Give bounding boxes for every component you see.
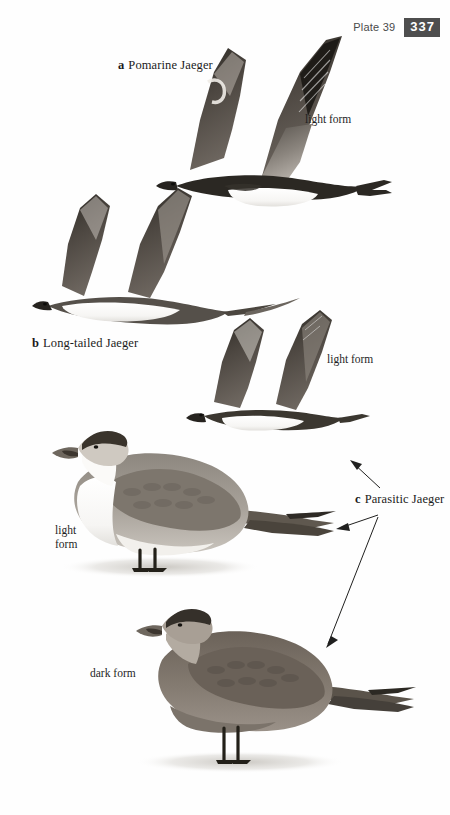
caption-key-b: b [32, 336, 39, 350]
leader-arrow-to-standing-dark [326, 517, 378, 648]
label-parasitic-flight-light-form: light form [327, 352, 373, 366]
page-number-badge: 337 [404, 18, 440, 37]
leader-arrow-to-standing-light [336, 515, 378, 531]
figure-long-tailed-jaeger-flight [32, 188, 300, 325]
plate-header: Plate 39 337 [353, 18, 440, 37]
caption-name-pomarine-jaeger: Pomarine Jaeger [128, 58, 212, 72]
plate-label: Plate 39 [353, 21, 395, 33]
caption-key-a: a [118, 58, 124, 72]
caption-long-tailed-jaeger: bLong-tailed Jaeger [32, 336, 138, 351]
plate-illustrations [0, 0, 450, 815]
leader-arrow-to-flight [350, 460, 380, 488]
label-parasitic-standing-dark-form: dark form [90, 666, 136, 680]
figure-parasitic-jaeger-flight [186, 310, 370, 431]
caption-pomarine-jaeger: aPomarine Jaeger [118, 58, 213, 73]
caption-name-long-tailed-jaeger: Long-tailed Jaeger [43, 336, 138, 350]
field-guide-plate: Plate 39 337 [0, 0, 450, 815]
caption-key-c: c [355, 492, 361, 506]
figure-parasitic-jaeger-standing-dark [135, 609, 416, 773]
leader-arrows [326, 460, 380, 648]
label-parasitic-standing-light-form: light form [55, 523, 89, 552]
label-pomarine-light-form: light form [305, 112, 351, 126]
label-light-line1: light [55, 524, 76, 536]
label-light-line2: form [55, 538, 77, 550]
caption-parasitic-jaeger: cParasitic Jaeger [355, 492, 444, 507]
caption-name-parasitic-jaeger: Parasitic Jaeger [365, 492, 445, 506]
figure-parasitic-jaeger-standing-light [52, 431, 336, 578]
